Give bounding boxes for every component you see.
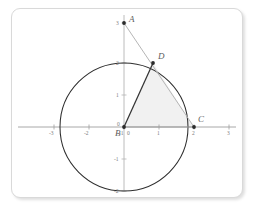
- y-tick-label-1: 1: [116, 92, 119, 98]
- y-tick-label-3: 3: [116, 20, 119, 26]
- x-tick-label-1: 1: [157, 130, 160, 136]
- x-tick-label-2: 2: [192, 130, 195, 136]
- geometry-plot: [12, 9, 242, 197]
- point-label-b: B: [115, 129, 121, 138]
- point-label-a: A: [129, 15, 135, 24]
- point-b[interactable]: [122, 125, 126, 129]
- x-tick-label-0: 0: [127, 130, 130, 136]
- triangle-bdc-fill: [124, 63, 194, 127]
- point-a[interactable]: [122, 21, 126, 25]
- y-tick-label--1: -1: [114, 156, 119, 162]
- point-d[interactable]: [151, 61, 155, 65]
- figure-card: -3 -2 -1 0 1 2 3 3 2 1 0 -1 -2 A B C D: [11, 8, 243, 198]
- point-label-d: D: [158, 52, 165, 61]
- point-c[interactable]: [192, 125, 196, 129]
- x-tick-label-3: 3: [227, 130, 230, 136]
- y-tick-label--2: -2: [114, 188, 119, 194]
- x-tick-label--3: -3: [49, 130, 54, 136]
- point-label-c: C: [198, 115, 204, 124]
- y-tick-label-0: 0: [117, 121, 120, 127]
- x-tick-label--2: -2: [84, 130, 89, 136]
- y-tick-label-2: 2: [116, 60, 119, 66]
